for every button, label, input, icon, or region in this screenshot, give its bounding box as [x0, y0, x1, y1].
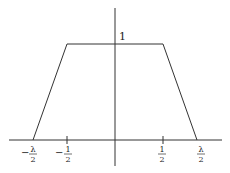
tick-numerator: 1	[159, 145, 164, 154]
tick-label-neg-lambda-half: − λ 2	[21, 145, 37, 164]
tick-denominator: 2	[30, 155, 35, 164]
trapezoid-diagram: 1 − λ 2 − 1 2 1 2 λ 2	[0, 0, 230, 173]
tick-label-half: 1 2	[158, 145, 166, 164]
tick-denominator: 2	[198, 155, 203, 164]
tick-sign: −	[55, 147, 63, 158]
tick-label-neg-half: − 1 2	[55, 145, 72, 164]
tick-label-lambda-half: λ 2	[197, 145, 205, 164]
tick-numerator: 1	[65, 145, 70, 154]
tick-numerator: λ	[198, 145, 203, 154]
tick-denominator: 2	[65, 155, 70, 164]
diagram-canvas: 1 − λ 2 − 1 2 1 2 λ 2	[0, 0, 230, 173]
tick-denominator: 2	[159, 155, 164, 164]
tick-numerator: λ	[30, 145, 35, 154]
tick-sign: −	[21, 147, 29, 158]
plateau-label: 1	[119, 30, 126, 43]
